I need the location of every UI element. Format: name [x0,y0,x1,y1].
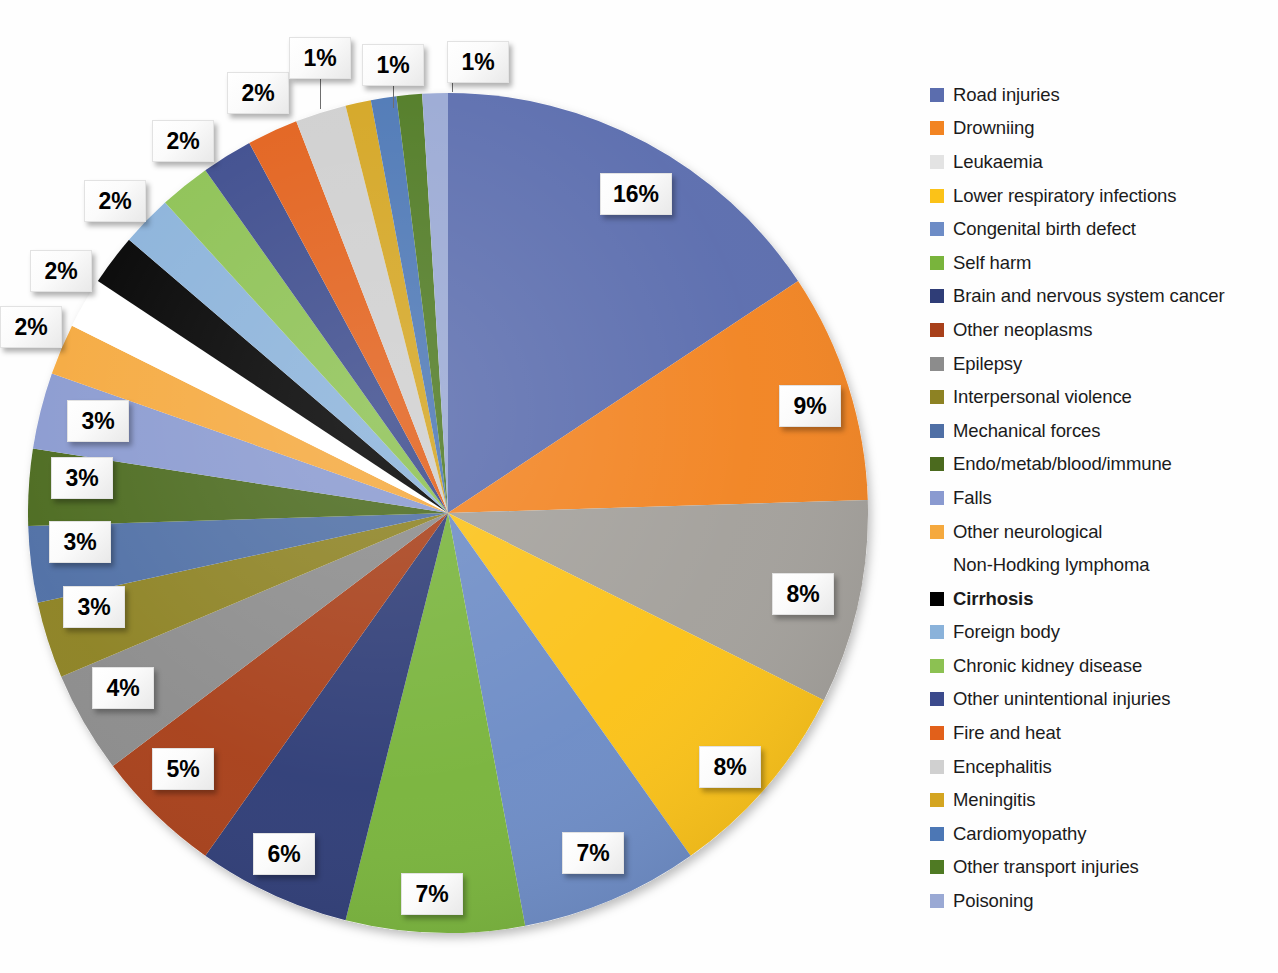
legend-swatch-icon [930,222,944,236]
slice-percentage-label: 6% [253,833,315,875]
slice-percentage-label: 2% [152,120,214,162]
slice-percentage-label: 3% [49,521,111,563]
legend-swatch-icon [930,827,944,841]
pie-chart-page: 16%9%8%8%7%7%6%5%4%3%3%3%3%2%2%2%2%2%1%1… [0,0,1278,973]
legend-item-label: Foreign body [953,621,1060,643]
legend-item-label: Other unintentional injuries [953,688,1170,710]
slice-percentage-label: 3% [51,457,113,499]
legend-item-label: Road injuries [953,84,1060,106]
legend-item-label: Cirrhosis [953,588,1033,610]
legend-swatch-icon [930,760,944,774]
slice-percentage-label: 8% [699,746,761,788]
legend-item-label: Falls [953,487,992,509]
legend-swatch-icon [930,525,944,539]
legend-swatch-icon [930,726,944,740]
pie-chart-area: 16%9%8%8%7%7%6%5%4%3%3%3%3%2%2%2%2%2%1%1… [0,0,920,973]
legend-swatch-icon [930,894,944,908]
legend-item[interactable]: Endo/metab/blood/immune [930,448,1278,482]
legend-item[interactable]: Interpersonal violence [930,380,1278,414]
slice-percentage-label: 2% [227,72,289,114]
slice-percentage-label: 1% [289,37,351,79]
legend-item[interactable]: Poisoning [930,884,1278,918]
pie-chart-svg [0,0,920,973]
legend-swatch-icon [930,625,944,639]
legend-item[interactable]: Fire and heat [930,716,1278,750]
slice-percentage-label: 5% [152,748,214,790]
legend-item[interactable]: Chronic kidney disease [930,649,1278,683]
legend: Road injuriesDrowniingLeukaemiaLower res… [930,78,1278,918]
legend-item[interactable]: Leukaemia [930,145,1278,179]
callout-leader-line [320,79,321,109]
slice-percentage-label: 7% [401,873,463,915]
legend-item-label: Lower respiratory infections [953,185,1176,207]
slice-percentage-label: 2% [84,180,146,222]
legend-item-label: Self harm [953,252,1031,274]
legend-item-label: Other neurological [953,521,1102,543]
legend-swatch-icon [930,323,944,337]
legend-item[interactable]: Meningitis [930,783,1278,817]
legend-swatch-icon [930,289,944,303]
legend-swatch-icon [930,155,944,169]
legend-item[interactable]: Falls [930,481,1278,515]
legend-swatch-icon [930,457,944,471]
legend-item-label: Cardiomyopathy [953,823,1086,845]
legend-item[interactable]: Cardiomyopathy [930,817,1278,851]
legend-item[interactable]: Other unintentional injuries [930,683,1278,717]
slice-percentage-label: 2% [0,306,62,348]
legend-swatch-icon [930,592,944,606]
legend-item[interactable]: Epilepsy [930,347,1278,381]
legend-item[interactable]: Other neurological [930,515,1278,549]
slice-percentage-label: 3% [67,400,129,442]
legend-swatch-icon [930,692,944,706]
legend-item-label: Endo/metab/blood/immune [953,453,1172,475]
slice-percentage-label: 4% [92,667,154,709]
slice-percentage-label: 8% [772,573,834,615]
legend-swatch-icon [930,659,944,673]
legend-swatch-icon [930,558,944,572]
slice-percentage-label: 1% [447,41,509,83]
legend-item-label: Brain and nervous system cancer [953,285,1224,307]
legend-item[interactable]: Other transport injuries [930,851,1278,885]
legend-item-label: Epilepsy [953,353,1022,375]
legend-item-label: Poisoning [953,890,1033,912]
legend-item[interactable]: Road injuries [930,78,1278,112]
slice-percentage-label: 7% [562,832,624,874]
legend-swatch-icon [930,860,944,874]
legend-item-label: Meningitis [953,789,1035,811]
legend-swatch-icon [930,357,944,371]
pie-slices-group[interactable] [28,93,868,933]
legend-item[interactable]: Brain and nervous system cancer [930,280,1278,314]
legend-swatch-icon [930,390,944,404]
legend-swatch-icon [930,88,944,102]
legend-item-label: Non-Hodking lymphoma [953,554,1149,576]
legend-item[interactable]: Foreign body [930,616,1278,650]
legend-swatch-icon [930,121,944,135]
legend-swatch-icon [930,256,944,270]
slice-percentage-label: 1% [362,44,424,86]
legend-item-label: Interpersonal violence [953,386,1132,408]
legend-item[interactable]: Cirrhosis [930,582,1278,616]
legend-item[interactable]: Drowniing [930,112,1278,146]
legend-item-label: Fire and heat [953,722,1061,744]
legend-item-label: Chronic kidney disease [953,655,1142,677]
slice-percentage-label: 16% [600,173,672,215]
legend-item-label: Encephalitis [953,756,1052,778]
slice-percentage-label: 9% [779,385,841,427]
legend-item[interactable]: Mechanical forces [930,414,1278,448]
legend-item-label: Mechanical forces [953,420,1100,442]
legend-item[interactable]: Congenital birth defect [930,212,1278,246]
legend-item-label: Drowniing [953,117,1034,139]
legend-item-label: Other transport injuries [953,856,1139,878]
legend-swatch-icon [930,491,944,505]
legend-item-label: Other neoplasms [953,319,1092,341]
legend-swatch-icon [930,793,944,807]
legend-item[interactable]: Lower respiratory infections [930,179,1278,213]
legend-item-label: Congenital birth defect [953,218,1136,240]
slice-percentage-label: 2% [30,250,92,292]
legend-swatch-icon [930,189,944,203]
legend-item-label: Leukaemia [953,151,1043,173]
legend-item[interactable]: Self harm [930,246,1278,280]
legend-item[interactable]: Other neoplasms [930,313,1278,347]
legend-item[interactable]: Encephalitis [930,750,1278,784]
legend-item[interactable]: Non-Hodking lymphoma [930,548,1278,582]
